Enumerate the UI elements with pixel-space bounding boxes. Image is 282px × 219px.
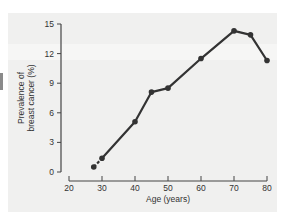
- data-point: [264, 58, 270, 64]
- data-point: [91, 164, 97, 170]
- y-tick-label: 3: [49, 137, 54, 147]
- data-point: [99, 155, 105, 161]
- x-tick-label: 30: [97, 183, 107, 193]
- x-tick-label: 80: [262, 183, 272, 193]
- data-point: [149, 89, 155, 95]
- x-tick-label: 60: [196, 183, 206, 193]
- line-chart: 03691215 20304050607080 Age (years) Prev…: [0, 0, 282, 219]
- y-tick-label: 0: [49, 167, 54, 177]
- x-tick-label: 50: [163, 183, 173, 193]
- x-tick-label: 20: [64, 183, 74, 193]
- y-tick-label: 15: [45, 19, 55, 29]
- y-axis-title-line-2: breast cancer (%): [26, 64, 36, 131]
- series-line: [102, 31, 267, 158]
- y-axis-title-line-1: Prevalence of: [16, 71, 26, 124]
- y-tick-label: 12: [45, 49, 55, 59]
- y-axis-title: Prevalence of breast cancer (%): [16, 64, 36, 131]
- data-point: [248, 32, 254, 38]
- data-point: [198, 56, 204, 62]
- x-axis-title: Age (years): [146, 194, 190, 204]
- data-point: [165, 85, 171, 91]
- y-tick-label: 6: [49, 108, 54, 118]
- y-axis: 03691215: [45, 19, 61, 177]
- data-point: [231, 28, 237, 34]
- x-tick-label: 70: [229, 183, 239, 193]
- data-point: [132, 119, 138, 125]
- y-tick-label: 9: [49, 78, 54, 88]
- data-series: [91, 28, 270, 170]
- x-tick-label: 40: [130, 183, 140, 193]
- x-axis: 20304050607080: [64, 176, 272, 193]
